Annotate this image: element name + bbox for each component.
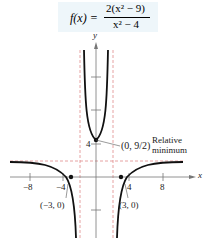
- leader-zero-left: [66, 184, 68, 198]
- min-label-relative: Relative: [152, 135, 182, 145]
- min-point-label: (0, 9/2): [121, 140, 150, 151]
- y-axis-label: y: [93, 30, 97, 40]
- y-axis-arrow-icon: [94, 42, 98, 49]
- zero-left-label: (−3, 0): [40, 200, 65, 210]
- point-zero-right: [119, 175, 123, 179]
- min-label-minimum: minimum: [152, 145, 187, 155]
- plot-area: [0, 0, 213, 241]
- y-tick-label: 4: [86, 139, 91, 149]
- x-tick-label: 4: [127, 182, 132, 192]
- graph-figure: f(x) = 2(x² − 9) x² − 4: [0, 0, 213, 241]
- leader-min: [96, 140, 120, 146]
- x-axis-arrow-icon: [189, 175, 196, 179]
- point-zero-left: [69, 175, 73, 179]
- zero-right-label: (3, 0): [119, 200, 139, 210]
- x-tick-label: −8: [23, 182, 33, 192]
- x-tick-label: −4: [56, 182, 66, 192]
- x-axis-label: x: [198, 170, 202, 180]
- x-tick-label: 8: [160, 182, 165, 192]
